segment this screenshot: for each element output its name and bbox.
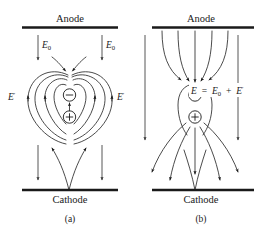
eprime-left-label: E′ <box>7 91 16 102</box>
eprime-right-label: E′ <box>116 91 125 102</box>
anode-label-a: Anode <box>56 13 84 24</box>
incoming-line-left <box>52 57 66 71</box>
cathode-v-left-b <box>184 150 195 190</box>
dipole-loop-left-outer <box>28 72 68 144</box>
e0-right-label: E0 <box>105 40 116 51</box>
field-line-figure: Anode E0 E0 E′ E′ <box>0 0 269 232</box>
outgoing-line-left <box>52 148 69 190</box>
converging-line-4 <box>201 31 212 81</box>
e0-left-label: E0 <box>41 40 52 51</box>
panel-a: Anode E0 E0 E′ E′ <box>0 0 134 232</box>
cathode-label-b: Cathode <box>184 194 219 205</box>
outgoing-line-right <box>69 148 86 190</box>
panel-b: Anode E = E0 + <box>134 0 269 232</box>
diverging-line-1 <box>152 123 186 172</box>
caption-b: (b) <box>195 214 206 225</box>
diverging-line-5 <box>204 123 238 172</box>
dipole-loop-right-outer <box>72 72 112 144</box>
caption-a: (a) <box>65 214 76 225</box>
cathode-label-a: Cathode <box>53 194 88 205</box>
cathode-v-right-b <box>195 150 206 190</box>
converging-line-2 <box>178 31 189 81</box>
anode-label-b: Anode <box>187 13 215 24</box>
incoming-line-right <box>73 57 87 71</box>
